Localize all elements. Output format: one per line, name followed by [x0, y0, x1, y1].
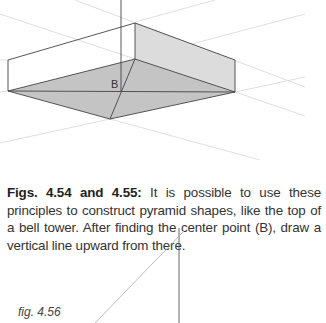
center-point-label: B [111, 78, 118, 90]
figure-caption: Figs. 4.54 and 4.55: It is possible to u… [7, 184, 321, 254]
pyramid-construction-drawing [0, 0, 326, 160]
caption-title: Figs. 4.54 and 4.55: [7, 185, 142, 200]
figure-label: fig. 4.56 [18, 305, 61, 319]
